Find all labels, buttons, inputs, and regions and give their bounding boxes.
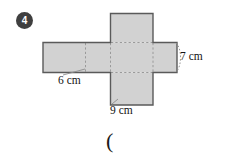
dimension-label-6cm: 6 cm (58, 74, 81, 86)
net-face-top (111, 14, 154, 43)
worksheet-canvas: 4 (0, 0, 227, 161)
dimension-label-9cm: 9 cm (110, 104, 133, 116)
dimension-label-7cm: 7 cm (180, 50, 203, 62)
answer-open-paren: ( (106, 128, 113, 154)
